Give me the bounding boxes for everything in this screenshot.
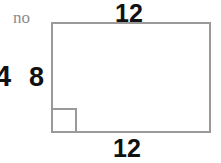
dimension-label-left-outer: 4 [0, 62, 11, 91]
dimension-label-top: 12 [115, 1, 143, 26]
dimension-label-bottom: 12 [113, 136, 141, 161]
note-text: no [13, 9, 30, 26]
right-angle-marker-icon [51, 108, 77, 133]
figure-canvas: no 12 12 8 4 [0, 0, 221, 163]
dimension-label-left-inner: 8 [29, 64, 44, 91]
